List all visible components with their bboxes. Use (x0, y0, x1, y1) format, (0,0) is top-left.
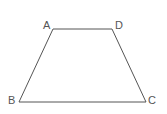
edge-ba (19, 29, 53, 102)
vertex-label-d: D (115, 19, 123, 31)
trapezoid-edges (19, 29, 146, 102)
vertex-label-b: B (8, 94, 15, 106)
vertex-label-c: C (148, 94, 156, 106)
edge-dc (112, 29, 146, 102)
vertex-label-a: A (43, 19, 51, 31)
trapezoid-diagram: A D C B (0, 0, 167, 114)
vertex-labels: A D C B (8, 19, 156, 106)
